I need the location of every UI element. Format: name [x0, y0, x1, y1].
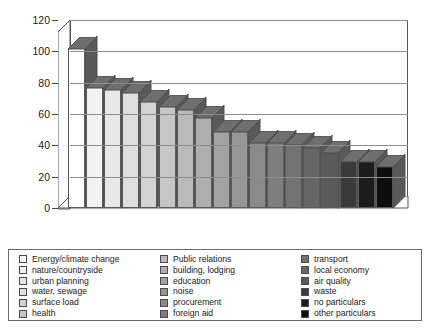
- y-axis-label: 120: [32, 15, 50, 25]
- y-axis-tick-labels: 020406080100120: [18, 0, 50, 240]
- legend-swatch: [301, 310, 309, 318]
- y-axis-label: 100: [32, 46, 50, 56]
- legend-item[interactable]: nature/countryside: [19, 265, 153, 276]
- legend-column: transportlocal economyair qualitywasteno…: [301, 254, 432, 319]
- bar-face: [358, 161, 375, 208]
- y-axis-tick: [52, 83, 58, 84]
- bar-face: [231, 131, 248, 208]
- legend-item-label: nature/countryside: [32, 266, 103, 275]
- bar: [195, 117, 212, 208]
- chart-legend: Energy/climate changenature/countrysideu…: [8, 249, 422, 321]
- bar-face: [140, 101, 157, 208]
- bar: [86, 87, 103, 208]
- bar: [213, 131, 230, 208]
- bar-face: [213, 131, 230, 208]
- legend-item-label: waste: [314, 287, 336, 296]
- bar-face: [177, 109, 194, 208]
- bar-face: [267, 142, 284, 208]
- bar: [231, 131, 248, 208]
- bar-face: [86, 87, 103, 208]
- bar-face: [104, 89, 121, 208]
- legend-item-label: no particulars: [314, 298, 366, 307]
- legend-item[interactable]: surface load: [19, 298, 153, 309]
- bar: [376, 166, 393, 208]
- legend-item[interactable]: Public relations: [160, 254, 294, 265]
- legend-item[interactable]: health: [19, 308, 153, 319]
- legend-swatch: [19, 299, 27, 307]
- gridline: [70, 83, 408, 84]
- bar: [159, 106, 176, 208]
- legend-swatch: [160, 266, 168, 274]
- legend-item-label: surface load: [32, 298, 79, 307]
- bar-top: [213, 119, 230, 131]
- legend-item[interactable]: building, lodging: [160, 265, 294, 276]
- y-axis-tick: [52, 208, 58, 209]
- legend-swatch: [19, 255, 27, 263]
- gridline: [70, 51, 408, 52]
- bar-face: [376, 166, 393, 208]
- legend-item-label: education: [173, 277, 210, 286]
- bar-face: [249, 142, 266, 208]
- y-axis-tick: [52, 20, 58, 21]
- bar-top: [285, 132, 302, 144]
- legend-item[interactable]: transport: [301, 254, 432, 265]
- bar-face: [122, 92, 139, 208]
- legend-item-label: Energy/climate change: [32, 255, 119, 264]
- legend-swatch: [301, 277, 309, 285]
- bar: [249, 142, 266, 208]
- bar: [140, 101, 157, 208]
- plot-area: [58, 20, 408, 218]
- legend-item[interactable]: noise: [160, 287, 294, 298]
- legend-item[interactable]: procurement: [160, 298, 294, 309]
- legend-item-label: noise: [173, 287, 194, 296]
- bar-top: [140, 89, 157, 101]
- legend-swatch: [19, 277, 27, 285]
- bar: [267, 142, 284, 208]
- legend-item[interactable]: Energy/climate change: [19, 254, 153, 265]
- bar-top: [231, 119, 248, 131]
- legend-item[interactable]: no particulars: [301, 298, 432, 309]
- bar-top: [68, 36, 85, 48]
- legend-item-label: health: [32, 309, 55, 318]
- legend-item[interactable]: local economy: [301, 265, 432, 276]
- y-axis-tick: [52, 51, 58, 52]
- y-axis-label: 40: [38, 140, 50, 150]
- legend-item[interactable]: urban planning: [19, 276, 153, 287]
- bar: [340, 161, 357, 208]
- legend-item[interactable]: air quality: [301, 276, 432, 287]
- bar-top: [358, 149, 375, 161]
- legend-item[interactable]: education: [160, 276, 294, 287]
- legend-swatch: [160, 277, 168, 285]
- legend-swatch: [160, 299, 168, 307]
- legend-swatch: [301, 266, 309, 274]
- legend-item-label: procurement: [173, 298, 221, 307]
- y-axis-label: 0: [44, 203, 50, 213]
- bar-face: [68, 48, 85, 208]
- legend-column: Public relationsbuilding, lodgingeducati…: [160, 254, 294, 319]
- legend-swatch: [19, 288, 27, 296]
- bar-chart: 020406080100120: [0, 0, 432, 240]
- legend-item[interactable]: waste: [301, 287, 432, 298]
- legend-item[interactable]: water, sewage: [19, 287, 153, 298]
- bar-top: [376, 154, 393, 166]
- y-axis-tick: [52, 177, 58, 178]
- bar: [321, 152, 338, 208]
- legend-swatch: [301, 288, 309, 296]
- bar-top: [340, 149, 357, 161]
- bar-series: [58, 20, 408, 218]
- bar-top: [86, 75, 103, 87]
- y-axis-label: 60: [38, 109, 50, 119]
- legend-column: Energy/climate changenature/countrysideu…: [19, 254, 153, 319]
- bar: [68, 48, 85, 208]
- bar-top: [159, 94, 176, 106]
- legend-swatch: [19, 266, 27, 274]
- legend-item[interactable]: other particulars: [301, 308, 432, 319]
- legend-item-label: foreign aid: [173, 309, 213, 318]
- bar: [104, 89, 121, 208]
- gridline: [70, 177, 408, 178]
- bar-top: [249, 130, 266, 142]
- legend-item[interactable]: foreign aid: [160, 308, 294, 319]
- bar-face: [195, 117, 212, 208]
- gridline: [70, 20, 408, 21]
- legend-swatch: [160, 288, 168, 296]
